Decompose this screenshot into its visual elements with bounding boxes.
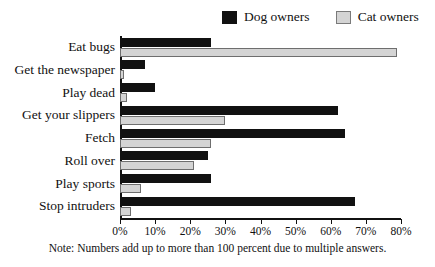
bar-row: Get your slippers xyxy=(120,104,401,127)
legend-item-cat-owners: Cat owners xyxy=(336,10,419,24)
x-axis-tick xyxy=(331,219,332,224)
category-label: Get your slippers xyxy=(22,104,115,127)
bar-row: Play sports xyxy=(120,173,401,196)
bar-dog-owners xyxy=(120,83,155,92)
category-label: Play dead xyxy=(62,82,115,105)
bar-cat-owners xyxy=(120,161,194,170)
category-label: Stop intruders xyxy=(39,195,115,218)
bar-dog-owners xyxy=(120,129,345,138)
bar-row: Fetch xyxy=(120,127,401,150)
bar-row: Roll over xyxy=(120,150,401,173)
x-axis-tick xyxy=(401,219,402,224)
x-axis-tick-label: 60% xyxy=(320,225,341,238)
x-axis-tick xyxy=(366,219,367,224)
x-axis-tick-label: 0% xyxy=(112,225,127,238)
legend-label-dog-owners: Dog owners xyxy=(244,10,310,24)
bar-dog-owners xyxy=(120,197,355,206)
bar-chart: Dog owners Cat owners Eat bugsGet the ne… xyxy=(0,0,435,267)
black-square-icon xyxy=(222,11,237,24)
gray-square-icon xyxy=(336,11,351,24)
category-label: Roll over xyxy=(64,150,115,173)
x-axis-tick-label: 10% xyxy=(145,225,166,238)
bar-cat-owners xyxy=(120,93,127,102)
x-axis-tick-label: 30% xyxy=(215,225,236,238)
bar-row: Get the newspaper xyxy=(120,59,401,82)
bar-dog-owners xyxy=(120,151,208,160)
bar-dog-owners xyxy=(120,174,211,183)
bar-rows: Eat bugsGet the newspaperPlay deadGet yo… xyxy=(120,36,401,218)
category-label: Get the newspaper xyxy=(15,59,115,82)
chart-legend: Dog owners Cat owners xyxy=(222,10,419,24)
plot-area: Eat bugsGet the newspaperPlay deadGet yo… xyxy=(120,36,401,218)
bar-cat-owners xyxy=(120,116,225,125)
x-axis-tick xyxy=(261,219,262,224)
x-axis-tick-label: 70% xyxy=(355,225,376,238)
x-axis-tick-label: 20% xyxy=(180,225,201,238)
bar-cat-owners xyxy=(120,139,211,148)
category-label: Play sports xyxy=(55,173,115,196)
x-axis-tick xyxy=(120,219,121,224)
bar-cat-owners xyxy=(120,184,141,193)
category-label: Eat bugs xyxy=(68,36,115,59)
bar-cat-owners xyxy=(120,70,124,79)
bar-dog-owners xyxy=(120,38,211,47)
bar-cat-owners xyxy=(120,207,131,216)
x-axis-tick-label: 80% xyxy=(390,225,411,238)
x-axis-tick xyxy=(225,219,226,224)
x-axis-tick-label: 50% xyxy=(285,225,306,238)
legend-label-cat-owners: Cat owners xyxy=(358,10,419,24)
x-axis-tick xyxy=(296,219,297,224)
chart-footnote: Note: Numbers add up to more than 100 pe… xyxy=(0,241,435,255)
bar-dog-owners xyxy=(120,106,338,115)
legend-item-dog-owners: Dog owners xyxy=(222,10,310,24)
x-axis-tick-label: 40% xyxy=(250,225,271,238)
bar-dog-owners xyxy=(120,60,145,69)
x-axis-tick xyxy=(190,219,191,224)
bar-cat-owners xyxy=(120,48,397,57)
category-label: Fetch xyxy=(85,127,115,150)
bar-row: Play dead xyxy=(120,82,401,105)
x-axis-tick xyxy=(155,219,156,224)
bar-row: Stop intruders xyxy=(120,195,401,218)
bar-row: Eat bugs xyxy=(120,36,401,59)
